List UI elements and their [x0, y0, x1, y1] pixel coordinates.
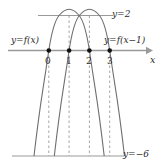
x-tick-label-1: 1: [66, 57, 72, 66]
x-tick-label-3: 3: [107, 57, 113, 66]
point-x-0: [47, 48, 52, 53]
x-tick-label-0: 0: [45, 57, 51, 66]
point-x-1: [67, 48, 72, 53]
label-y-equals-f-of-x-minus-1: y=f(x−1): [104, 36, 145, 45]
label-y-equals-minus-6: y=−6: [123, 150, 149, 159]
point-x-2: [87, 48, 92, 53]
graph-canvas: [0, 0, 162, 166]
x-tick-label-2: 2: [86, 57, 92, 66]
point-x-3: [107, 48, 112, 53]
label-x-axis: x: [150, 55, 155, 65]
graph-figure: y=2 y=f(x) y=f(x−1) y=−6 x 0 1 2 3: [0, 0, 162, 166]
label-y-equals-2: y=2: [112, 10, 130, 19]
label-y-equals-f-of-x: y=f(x): [11, 36, 39, 45]
